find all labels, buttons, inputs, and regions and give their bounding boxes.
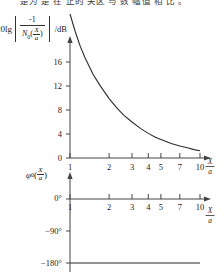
phase-x-ticks xyxy=(70,194,200,199)
phase-xaxis-label: X a xyxy=(206,206,215,225)
magnitude-ytick-4: 4 xyxy=(58,129,63,139)
figure-root: 是为 是 在 正的 关区 与 数 幅值 相 比 。 20lg -1 N0(Xa)… xyxy=(0,0,224,278)
phase-ytick-m90: −90° xyxy=(45,226,62,236)
phase-x-arrow xyxy=(204,196,211,201)
magnitude-x-ticks xyxy=(70,153,200,158)
phase-xtick-1: 1 xyxy=(68,202,72,212)
magnitude-xlabel-top: X xyxy=(207,157,213,166)
magnitude-ytick-12: 12 xyxy=(54,81,63,91)
magnitude-plot: 0 4 8 12 16 1 2 3 4 5 7 10 xyxy=(54,14,215,176)
phase-xlabel-top: X xyxy=(207,206,213,215)
phase-xlabel-bottom: a xyxy=(208,216,212,225)
phase-xtick-7: 7 xyxy=(178,202,182,212)
phase-plot: 0° −90° −180° 1 2 3 4 5 7 10 X xyxy=(41,172,214,272)
magnitude-xtick-5: 5 xyxy=(159,162,163,172)
magnitude-xtick-10: 10 xyxy=(196,162,205,172)
magnitude-xtick-7: 7 xyxy=(178,162,182,172)
magnitude-xaxis-label: X a xyxy=(206,157,215,176)
magnitude-xtick-3: 3 xyxy=(130,162,134,172)
magnitude-ytick-0: 0 xyxy=(58,153,62,163)
phase-xtick-4: 4 xyxy=(146,202,151,212)
phase-xtick-10: 10 xyxy=(196,202,205,212)
phase-xtick-3: 3 xyxy=(130,202,134,212)
magnitude-y-ticks xyxy=(66,62,70,158)
phase-xtick-2: 2 xyxy=(107,202,111,212)
magnitude-ytick-16: 16 xyxy=(54,57,63,67)
magnitude-xtick-1: 1 xyxy=(68,162,72,172)
phase-xtick-5: 5 xyxy=(159,202,163,212)
magnitude-xlabel-bottom: a xyxy=(208,167,212,176)
bode-plot: 0 4 8 12 16 1 2 3 4 5 7 10 xyxy=(0,0,224,278)
magnitude-xtick-4: 4 xyxy=(146,162,151,172)
magnitude-y-arrow xyxy=(67,36,72,43)
phase-ytick-0: 0° xyxy=(54,193,62,203)
phase-y-arrow xyxy=(67,172,72,179)
magnitude-curve xyxy=(70,14,200,151)
magnitude-ytick-8: 8 xyxy=(58,105,62,115)
phase-ytick-m180: −180° xyxy=(41,258,62,268)
magnitude-xtick-2: 2 xyxy=(107,162,111,172)
